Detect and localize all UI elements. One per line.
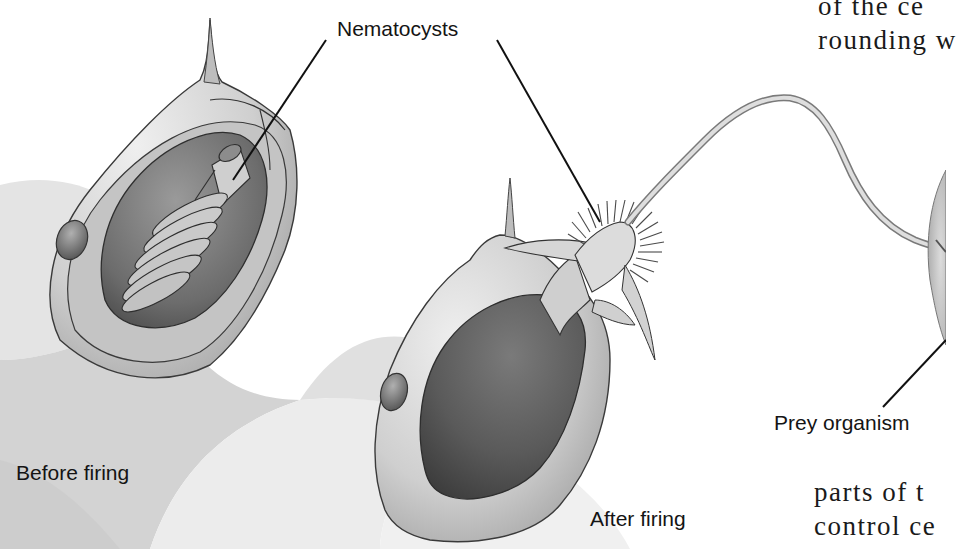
label-prey-organism: Prey organism	[774, 412, 909, 433]
prey-organism	[928, 170, 946, 345]
body-text-line: rounding w	[818, 27, 957, 54]
body-text-line: parts of t	[814, 479, 925, 506]
cnidocyte-before-firing	[50, 18, 297, 378]
prey-organism-leader	[883, 340, 946, 407]
cnidocyte-after-firing	[375, 98, 938, 542]
body-text-line: control ce	[814, 513, 936, 540]
body-text-line: of the ce	[818, 0, 924, 20]
label-after-firing: After firing	[590, 508, 686, 529]
label-nematocysts: Nematocysts	[337, 18, 458, 39]
nematocysts-leader-right	[497, 40, 600, 222]
label-before-firing: Before firing	[16, 462, 129, 483]
